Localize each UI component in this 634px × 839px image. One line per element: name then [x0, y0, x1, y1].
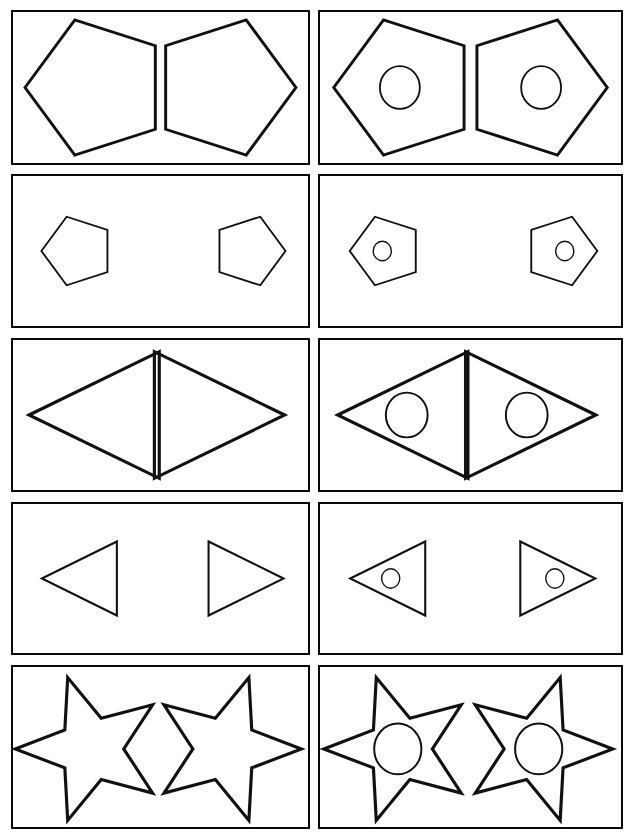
pentagon-point-left[interactable]	[334, 20, 464, 155]
triangle-outline	[520, 541, 595, 615]
triangle-point-left[interactable]	[42, 541, 117, 615]
pentagon-point-right[interactable]	[219, 217, 285, 286]
shape-pair-canvas	[13, 12, 308, 163]
shape-pair-canvas	[13, 340, 308, 490]
inner-circle-outline	[374, 724, 421, 775]
triangle-outline	[466, 352, 596, 479]
triangle-point-left[interactable]	[338, 352, 468, 479]
cell-triangles-small-with-circle[interactable]	[318, 502, 623, 655]
inner-circle-outline	[521, 66, 561, 109]
star-point-left[interactable]	[15, 678, 152, 821]
triangle-outline	[338, 352, 468, 479]
cell-triangles-small-plain[interactable]	[11, 502, 310, 655]
worksheet-page	[0, 0, 634, 839]
pentagon-point-right[interactable]	[477, 20, 607, 155]
triangle-point-right[interactable]	[466, 352, 596, 479]
inner-circle-outline	[506, 393, 548, 438]
cell-stars-with-circle[interactable]	[318, 665, 623, 829]
inner-circle-outline	[380, 66, 420, 109]
cell-pentagons-small-with-circle[interactable]	[318, 174, 623, 328]
shape-pair-canvas	[320, 667, 621, 827]
star-point-left[interactable]	[324, 678, 461, 821]
worksheet-grid	[0, 0, 634, 839]
pentagon-point-right[interactable]	[166, 20, 296, 155]
pentagon-outline	[350, 217, 416, 286]
triangle-outline	[209, 541, 284, 615]
shape-pair-canvas	[320, 504, 621, 653]
inner-circle-outline	[546, 569, 564, 588]
triangle-point-left[interactable]	[29, 352, 159, 479]
inner-circle-outline	[382, 569, 400, 588]
cell-triangles-large-with-circle[interactable]	[318, 338, 623, 492]
pentagon-outline	[41, 217, 107, 286]
pentagon-point-left[interactable]	[41, 217, 107, 286]
shape-pair-canvas	[13, 667, 308, 827]
cell-stars-plain[interactable]	[11, 665, 310, 829]
pentagon-point-right[interactable]	[531, 217, 597, 286]
shape-pair-canvas	[13, 176, 308, 326]
pentagon-outline	[219, 217, 285, 286]
pentagon-point-left[interactable]	[25, 20, 155, 155]
triangle-outline	[154, 352, 284, 479]
cell-pentagons-large-plain[interactable]	[11, 10, 310, 165]
cell-pentagons-small-plain[interactable]	[11, 174, 310, 328]
triangle-outline	[42, 541, 117, 615]
star-outline	[324, 678, 461, 821]
triangle-point-right[interactable]	[154, 352, 284, 479]
star-outline	[15, 678, 152, 821]
triangle-point-right[interactable]	[209, 541, 284, 615]
pentagon-outline	[531, 217, 597, 286]
inner-circle-outline	[556, 241, 574, 260]
shape-pair-canvas	[320, 12, 621, 163]
inner-circle-outline	[386, 393, 428, 438]
shape-pair-canvas	[320, 340, 621, 490]
triangle-point-left[interactable]	[350, 541, 425, 615]
star-point-right[interactable]	[475, 678, 612, 821]
star-outline	[475, 678, 612, 821]
inner-circle-outline	[373, 241, 391, 260]
triangle-outline	[29, 352, 159, 479]
star-point-right[interactable]	[164, 678, 301, 821]
cell-pentagons-large-with-circle[interactable]	[318, 10, 623, 165]
shape-pair-canvas	[320, 176, 621, 326]
pentagon-outline	[477, 20, 607, 155]
shape-pair-canvas	[13, 504, 308, 653]
cell-triangles-large-plain[interactable]	[11, 338, 310, 492]
inner-circle-outline	[515, 724, 562, 775]
triangle-outline	[350, 541, 425, 615]
star-outline	[164, 678, 301, 821]
pentagon-outline	[25, 20, 155, 155]
triangle-point-right[interactable]	[520, 541, 595, 615]
pentagon-outline	[334, 20, 464, 155]
pentagon-outline	[166, 20, 296, 155]
pentagon-point-left[interactable]	[350, 217, 416, 286]
